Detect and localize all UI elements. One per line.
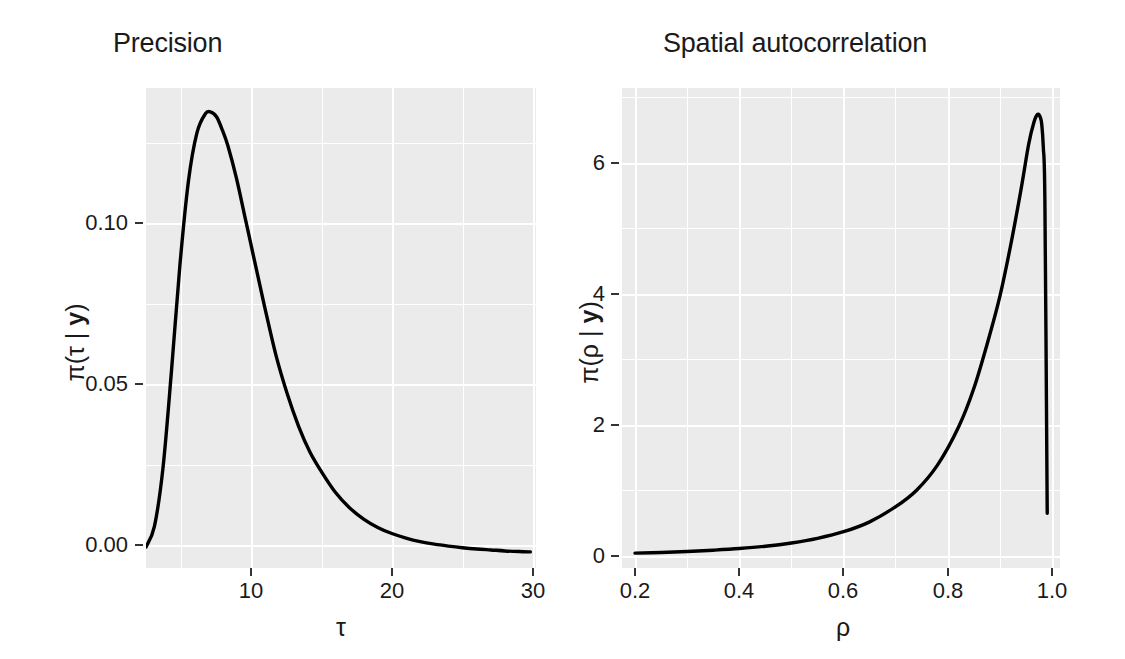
y-tick-label-left-0: 0.10 [52, 210, 128, 236]
y-tick-mark-right-2 [611, 424, 619, 426]
x-tick-mark-right-4 [1051, 568, 1053, 576]
y-axis-title-right: π(ρ | y) [548, 328, 630, 357]
y-axis-title-right-prefix: π(ρ | [575, 324, 603, 384]
x-axis-title-left: τ [336, 613, 346, 642]
x-tick-label-right-4: 1.0 [1037, 578, 1068, 604]
y-tick-mark-left-0 [135, 222, 143, 224]
x-tick-label-right-3: 0.8 [933, 578, 964, 604]
x-tick-label-left-2: 30 [521, 578, 545, 604]
y-tick-mark-left-1 [135, 383, 143, 385]
y-tick-label-right-3: 0 [563, 543, 605, 569]
y-tick-mark-right-1 [611, 293, 619, 295]
density-curve-spatial-autocorrelation [622, 88, 1060, 568]
x-tick-mark-left-0 [250, 568, 252, 576]
x-tick-mark-right-3 [947, 568, 949, 576]
chart-panel-precision: Precision π(τ | y) 0.10 0.05 0.00 [0, 0, 563, 659]
plot-area-left [146, 88, 536, 568]
plot-area-right [622, 88, 1060, 568]
x-tick-mark-right-1 [738, 568, 740, 576]
x-tick-label-right-1: 0.4 [724, 578, 755, 604]
y-tick-mark-right-3 [611, 555, 619, 557]
y-axis-title-left-suffix: ) [61, 303, 89, 311]
x-tick-label-left-0: 10 [239, 578, 263, 604]
y-tick-label-right-2: 2 [563, 412, 605, 438]
y-tick-label-left-1: 0.05 [52, 371, 128, 397]
y-tick-mark-right-0 [611, 162, 619, 164]
x-tick-label-left-1: 20 [380, 578, 404, 604]
x-tick-mark-right-2 [842, 568, 844, 576]
page-title-right: Spatial autocorrelation [663, 28, 927, 59]
x-tick-mark-right-0 [634, 568, 636, 576]
page-title: Precision [113, 28, 222, 59]
y-axis-title-left: π(τ | y) [36, 328, 114, 357]
x-axis-title-right: ρ [836, 613, 850, 642]
density-curve-precision [146, 88, 536, 568]
figure-canvas: Precision π(τ | y) 0.10 0.05 0.00 [0, 0, 1125, 659]
y-tick-label-left-2: 0.00 [52, 532, 128, 558]
y-axis-title-left-bold: y [61, 312, 89, 326]
chart-panel-spatial-autocorrelation: Spatial autocorrelation π(ρ | y) 6 4 2 0 [563, 0, 1125, 659]
x-tick-mark-left-2 [532, 568, 534, 576]
y-tick-label-right-1: 4 [563, 281, 605, 307]
x-tick-mark-left-1 [391, 568, 393, 576]
x-tick-label-right-2: 0.6 [828, 578, 859, 604]
y-tick-label-right-0: 6 [563, 150, 605, 176]
y-axis-title-right-bold: y [575, 310, 603, 324]
y-tick-mark-left-2 [135, 544, 143, 546]
x-tick-label-right-0: 0.2 [620, 578, 651, 604]
